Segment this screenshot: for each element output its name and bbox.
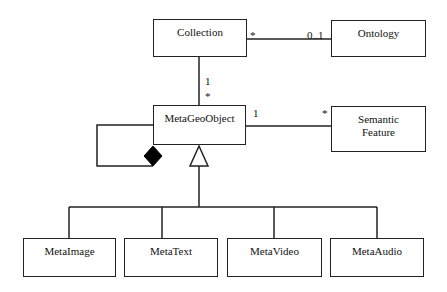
multiplicity-collection-ontology-target: 0..1	[307, 30, 324, 41]
composition-diamond-icon	[144, 146, 162, 166]
class-metageoobject-label: MetaGeoObject	[154, 112, 245, 125]
class-metageoobject: MetaGeoObject	[153, 105, 246, 145]
multiplicity-metageoobject-semantic-target: *	[322, 108, 328, 119]
generalization-triangle-icon	[190, 146, 208, 166]
class-ontology-label: Ontology	[332, 27, 425, 40]
multiplicity-collection-ontology-source: *	[250, 30, 256, 41]
class-semantic-feature-label-1: Semantic	[332, 113, 425, 126]
self-composition-loop	[97, 125, 153, 166]
class-collection-label: Collection	[154, 26, 246, 39]
class-semantic-feature: Semantic Feature	[331, 106, 426, 152]
class-metaaudio-label: MetaAudio	[331, 245, 423, 258]
class-collection: Collection	[153, 19, 247, 57]
class-semantic-feature-label-2: Feature	[332, 126, 425, 139]
class-metavideo: MetaVideo	[227, 238, 322, 277]
class-metatext: MetaText	[124, 238, 218, 277]
class-metavideo-label: MetaVideo	[228, 245, 321, 258]
multiplicity-metageoobject-semantic-source: 1	[253, 108, 259, 119]
class-metaimage-label: MetaImage	[24, 245, 115, 258]
class-metaaudio: MetaAudio	[330, 238, 424, 277]
class-ontology: Ontology	[331, 20, 426, 57]
multiplicity-collection-metageoobject-target: *	[205, 91, 211, 102]
multiplicity-collection-metageoobject-source: 1	[205, 76, 211, 87]
class-metaimage: MetaImage	[23, 238, 116, 277]
class-metatext-label: MetaText	[125, 245, 217, 258]
